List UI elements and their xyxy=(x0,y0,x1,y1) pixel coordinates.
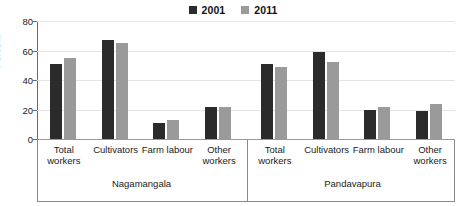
category-label: Total workers xyxy=(249,144,301,166)
bar xyxy=(205,107,217,139)
category-label: Otherworkers xyxy=(404,144,456,166)
bar xyxy=(219,107,231,139)
category-label: Cultivators xyxy=(90,144,142,155)
legend-label-2011: 2011 xyxy=(254,4,277,16)
bar-group xyxy=(352,21,404,139)
legend-entry-2001: 2001 xyxy=(189,4,226,16)
group-label: Nagamangala xyxy=(38,178,245,189)
bar-group xyxy=(37,21,89,139)
bar xyxy=(275,67,287,139)
y-tick-label-60: 60 xyxy=(22,45,33,56)
bar xyxy=(102,40,114,139)
bar xyxy=(313,52,325,139)
category-label-band: Total workersCultivatorsFarm labourOther… xyxy=(37,140,455,202)
bar xyxy=(64,58,76,139)
group-label: Pandavapura xyxy=(249,178,456,189)
plot-area: 020406080 xyxy=(37,21,455,139)
legend-swatch-2001 xyxy=(189,6,197,14)
bar xyxy=(430,104,442,139)
bar xyxy=(364,110,376,140)
y-tick-label-40: 40 xyxy=(22,75,33,86)
y-tick-label-80: 80 xyxy=(22,16,33,27)
legend-label-2001: 2001 xyxy=(202,4,226,16)
bar-group xyxy=(403,21,455,139)
group-divider xyxy=(247,140,248,201)
bar xyxy=(378,107,390,139)
bar xyxy=(167,120,179,139)
bar xyxy=(327,62,339,139)
bar-group xyxy=(192,21,244,139)
bar-chart: 2001 2011 Percent 020406080 Total worker… xyxy=(0,0,466,206)
category-label: Otherworkers xyxy=(193,144,245,166)
category-label: Cultivators xyxy=(301,144,353,155)
bar xyxy=(261,64,273,139)
bar-group xyxy=(248,21,300,139)
bar-group xyxy=(141,21,193,139)
y-tick-label-20: 20 xyxy=(22,104,33,115)
bars-layer xyxy=(37,21,455,139)
bar-group xyxy=(300,21,352,139)
category-label: Farm labour xyxy=(142,144,194,155)
bar xyxy=(153,123,165,139)
bar xyxy=(116,43,128,139)
y-axis-title: Percent xyxy=(0,17,2,87)
category-label: Farm labour xyxy=(353,144,405,155)
legend-entry-2011: 2011 xyxy=(241,4,277,16)
category-label: Total workers xyxy=(38,144,90,166)
bar xyxy=(416,111,428,139)
bar-group xyxy=(89,21,141,139)
legend-swatch-2011 xyxy=(241,6,249,14)
chart-legend: 2001 2011 xyxy=(0,4,466,16)
bar xyxy=(50,64,62,139)
